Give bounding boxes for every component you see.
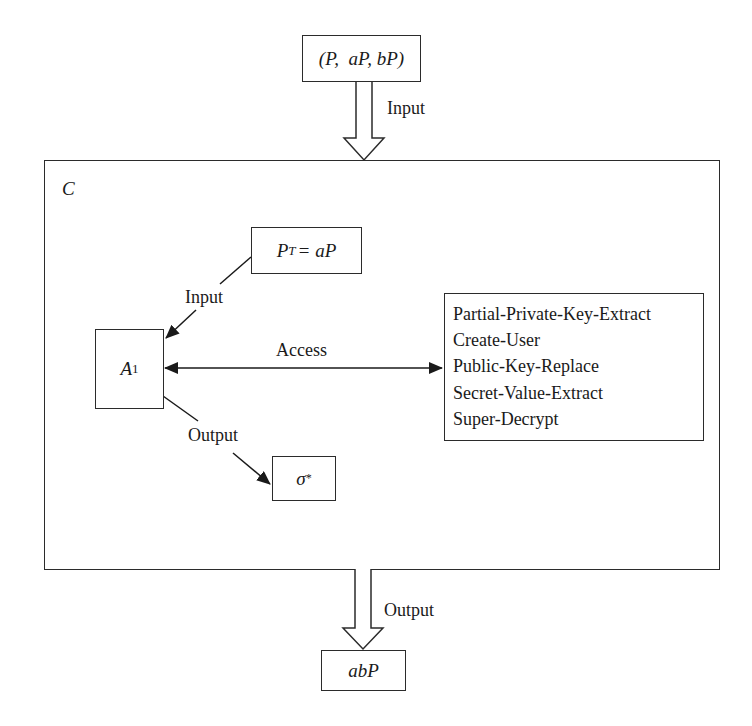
- adversary-output-label: Output: [188, 425, 238, 446]
- input-tuple-box: (P, aP, bP): [302, 35, 421, 82]
- input-tuple-text: (P, aP, bP): [319, 48, 404, 70]
- adversary-name: A: [120, 358, 132, 380]
- forgery-box: σ*: [272, 456, 336, 501]
- oracle-public-key-replace: Public-Key-Replace: [453, 353, 703, 379]
- oracle-secret-value-extract: Secret-Value-Extract: [453, 380, 703, 406]
- target-key-subscript: T: [288, 243, 295, 259]
- input-hollow-arrow: [344, 81, 384, 160]
- target-key-lhs: P: [277, 240, 289, 262]
- forgery-superscript: *: [306, 471, 312, 486]
- output-hollow-arrow: [343, 569, 383, 649]
- adversary-subscript: 1: [132, 361, 139, 377]
- result-text: abP: [348, 660, 379, 682]
- oracle-super-decrypt: Super-Decrypt: [453, 406, 703, 432]
- adversary-box: A1: [95, 329, 164, 409]
- target-key-box: PT= aP: [251, 227, 362, 274]
- access-label: Access: [276, 340, 327, 361]
- oracle-partial-private-key-extract: Partial-Private-Key-Extract: [453, 301, 703, 327]
- forgery-symbol: σ: [296, 468, 305, 490]
- output-arrow-label: Output: [384, 600, 434, 621]
- adversary-input-label: Input: [185, 287, 223, 308]
- oracle-create-user: Create-User: [453, 327, 703, 353]
- result-box: abP: [321, 650, 406, 691]
- oracle-list-box: Partial-Private-Key-Extract Create-User …: [444, 293, 704, 441]
- input-arrow-label: Input: [387, 98, 425, 119]
- target-key-rhs: = aP: [298, 240, 337, 262]
